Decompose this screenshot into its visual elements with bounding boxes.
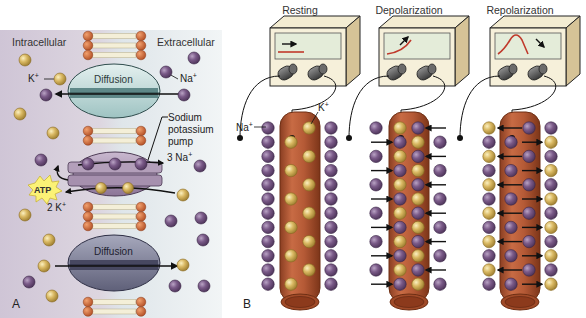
sodium-ion: [505, 278, 517, 290]
lipid-tail: [92, 138, 136, 143]
potassium-ion: [96, 183, 107, 194]
potassium-ion: [19, 209, 31, 221]
sodium-ion: [394, 221, 406, 233]
potassium-ion: [483, 235, 495, 247]
sodium-ion: [35, 154, 47, 166]
lipid-head: [83, 307, 93, 317]
sodium-ion: [545, 264, 557, 276]
sodium-ion: [434, 250, 446, 262]
lipid-head: [83, 212, 93, 222]
potassium-ion: [285, 164, 297, 176]
lipid-tail: [92, 300, 136, 305]
oscilloscope: [490, 16, 580, 86]
lipid-head: [136, 202, 146, 212]
electrode-tip: [457, 135, 463, 141]
pump-label-line-2: potassium: [168, 124, 214, 135]
sodium-ion: [523, 150, 535, 162]
potassium-ion: [177, 259, 189, 271]
potassium-ion: [483, 264, 495, 276]
sodium-ion: [40, 89, 52, 101]
sodium-ion: [412, 179, 424, 191]
panel-b-stages: RestingDepolarizationRepolarization: [237, 4, 580, 310]
axon-lumen: [505, 297, 535, 308]
lipid-head: [136, 31, 146, 41]
lipid-head: [83, 221, 93, 231]
potassium-ion: [545, 164, 557, 176]
potassium-ion: [394, 264, 406, 276]
panel-a: Intracellular Extracellular Diffusion AT…: [0, 30, 222, 318]
potassium-ion: [545, 250, 557, 262]
oscilloscope-side: [455, 16, 469, 86]
sodium-ion: [197, 234, 209, 246]
sodium-ion: [165, 215, 177, 227]
sodium-ion: [325, 235, 337, 247]
potassium-ion: [177, 189, 189, 201]
sodium-ion: [394, 164, 406, 176]
oscilloscope-side: [566, 16, 580, 86]
sodium-ion: [434, 278, 446, 290]
sodium-ion: [370, 150, 382, 162]
lipid-head: [136, 297, 146, 307]
sodium-ion: [370, 264, 382, 276]
sodium-ion: [194, 160, 206, 172]
sodium-ion: [325, 278, 337, 290]
potassium-ion: [285, 193, 297, 205]
stage-resting: Resting: [237, 4, 360, 310]
sodium-ion: [434, 193, 446, 205]
sodium-ion: [325, 193, 337, 205]
sodium-ion: [325, 264, 337, 276]
panel-a-label: A: [12, 297, 20, 311]
sodium-ion: [262, 264, 274, 276]
sodium-ion: [394, 250, 406, 262]
knob-face: [319, 64, 327, 74]
panel-b-k-label: K+: [318, 101, 329, 113]
oscilloscope: [270, 16, 360, 86]
lipid-head: [136, 136, 146, 146]
knob-face: [539, 64, 547, 74]
sodium-ion: [370, 235, 382, 247]
sodium-ion: [169, 280, 181, 292]
lipid-head: [136, 212, 146, 222]
lipid-head: [83, 41, 93, 51]
sodium-ion: [178, 89, 190, 101]
sodium-ion: [523, 235, 535, 247]
electrode-tip: [346, 135, 352, 141]
sodium-ion: [262, 136, 274, 148]
oscilloscope-top: [270, 16, 360, 28]
sodium-ion: [394, 136, 406, 148]
sodium-ion: [325, 221, 337, 233]
sodium-ion: [483, 193, 495, 205]
knob-face: [398, 64, 406, 74]
potassium-ion: [303, 122, 315, 134]
potassium-ion: [412, 221, 424, 233]
lipid-head: [83, 126, 93, 136]
pump-label-line-1: Sodium: [168, 112, 202, 123]
panel-b-label: B: [243, 297, 251, 311]
sodium-ion: [505, 193, 517, 205]
potassium-ion: [412, 250, 424, 262]
potassium-ion: [285, 136, 297, 148]
sodium-ion: [325, 122, 337, 134]
lipid-head: [83, 31, 93, 41]
potassium-ion: [412, 164, 424, 176]
sodium-ion: [394, 278, 406, 290]
lipid-tail: [92, 205, 136, 210]
potassium-ion: [483, 179, 495, 191]
sodium-ion: [135, 158, 147, 170]
oscilloscope-top: [490, 16, 580, 28]
stage-title: Resting: [282, 4, 318, 16]
sodium-ion: [370, 179, 382, 191]
sodium-ion: [160, 66, 172, 78]
atp-label: ATP: [34, 185, 51, 195]
potassium-ion: [545, 193, 557, 205]
stage-depolarization: Depolarization: [346, 4, 469, 310]
potassium-ion: [123, 183, 134, 194]
oscilloscope-screen: [275, 33, 341, 59]
knob-face: [428, 64, 436, 74]
sodium-ion: [505, 250, 517, 262]
potassium-ion: [43, 234, 55, 246]
axon-lumen: [285, 297, 315, 308]
sodium-ion: [434, 164, 446, 176]
sodium-ion: [262, 193, 274, 205]
diffusion-bottom-label: Diffusion: [94, 246, 133, 257]
